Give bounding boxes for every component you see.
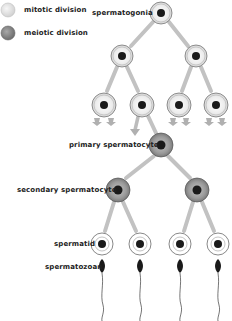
label-spermatid: spermatid	[54, 240, 95, 248]
cell-spermatogonia	[150, 2, 172, 24]
cell-spermatid	[91, 233, 229, 255]
cell-secondary-spermatocyte	[106, 178, 209, 202]
cell-mitotic-gen2	[111, 45, 207, 67]
legend-mitotic-swatch	[1, 3, 15, 17]
cell-mitotic-gen3	[92, 93, 228, 117]
legend-meiotic-swatch	[1, 26, 15, 40]
legend-mitotic-label: mitotic division	[24, 6, 87, 14]
legend	[1, 3, 15, 40]
legend-meiotic-label: meiotic division	[24, 29, 88, 37]
label-spermatozoan: spermatozoan	[45, 263, 102, 271]
cell-spermatozoan	[99, 259, 221, 321]
label-secondary-spermatocyte: secondary spermatocyte	[17, 186, 117, 194]
label-primary-spermatocyte: primary spermatocyte	[69, 141, 159, 149]
spermatogenesis-diagram	[0, 0, 232, 321]
label-spermatogonia: spermatogonia	[92, 9, 153, 17]
